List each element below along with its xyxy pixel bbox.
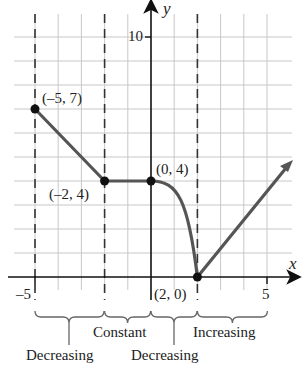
- tick-label-5: 5: [262, 287, 270, 302]
- point-label-neg5-7: (–5, 7): [42, 91, 82, 106]
- y-axis-label: y: [163, 0, 171, 17]
- point-label-2-0: (2, 0): [154, 287, 187, 302]
- interval-label-decreasing-1: Decreasing: [26, 348, 93, 363]
- interval-label-constant: Constant: [93, 325, 146, 340]
- x-axis-label: x: [289, 255, 297, 272]
- point-label-0-4: (0, 4): [156, 162, 189, 177]
- arrow-head-icon: [280, 160, 293, 172]
- point-label-neg2-4: (–2, 4): [49, 187, 89, 202]
- tick-label-10: 10: [128, 29, 143, 44]
- interval-label-decreasing-2: Decreasing: [131, 348, 198, 363]
- function-graph: [0, 0, 304, 372]
- axes: [8, 0, 300, 300]
- tick-label-neg5: –5: [16, 287, 31, 302]
- grid-lines: [14, 14, 292, 290]
- interval-label-increasing: Increasing: [193, 325, 255, 340]
